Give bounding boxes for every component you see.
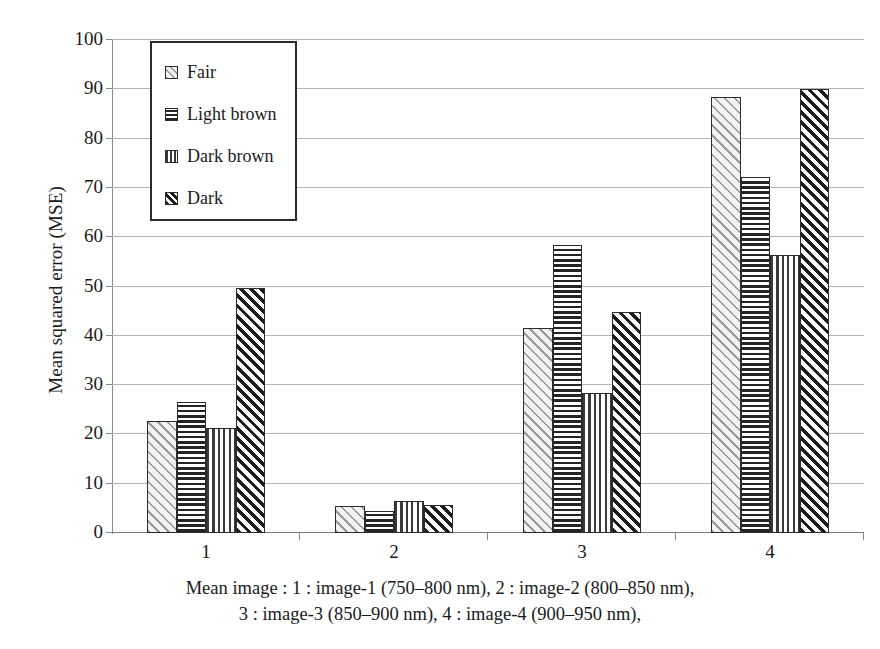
y-tick-label-60: 60 <box>84 225 103 247</box>
y-tick-label-80: 80 <box>84 127 103 149</box>
x-axis-tick-labels: 1234 <box>112 541 864 571</box>
x-category-separator-1 <box>299 533 300 540</box>
bar-group-4 <box>676 40 864 533</box>
bar-dark-brown-1 <box>206 428 236 533</box>
y-tick-label-40: 40 <box>84 324 103 346</box>
x-category-separator-2 <box>487 533 488 540</box>
bars-2 <box>335 40 453 533</box>
bar-dark-brown-3 <box>582 393 612 533</box>
bar-dark-1 <box>236 288 266 533</box>
x-tick-label-4: 4 <box>676 541 864 571</box>
y-tick-label-100: 100 <box>75 28 104 50</box>
bar-dark-brown-2 <box>394 501 424 533</box>
x-tick-label-2: 2 <box>300 541 488 571</box>
bar-light-brown-2 <box>365 511 395 533</box>
x-tick-label-1: 1 <box>112 541 300 571</box>
legend: FairLight brownDark brownDark <box>150 41 297 221</box>
legend-swatch-icon-fair <box>165 66 178 79</box>
legend-swatch-icon-light-brown <box>165 108 178 121</box>
x-category-separator-3 <box>675 533 676 540</box>
y-tick-label-70: 70 <box>84 176 103 198</box>
x-tick-label-3: 3 <box>488 541 676 571</box>
bars-4 <box>711 40 829 533</box>
figure-caption: Mean image : 1 : image-1 (750–800 nm), 2… <box>0 575 880 627</box>
bar-light-brown-4 <box>741 177 771 533</box>
legend-label: Dark <box>187 188 223 209</box>
legend-label: Dark brown <box>187 146 273 167</box>
legend-label: Fair <box>187 62 216 83</box>
caption-line-1: Mean image : 1 : image-1 (750–800 nm), 2… <box>0 575 880 601</box>
legend-item-fair: Fair <box>152 53 295 93</box>
bar-fair-4 <box>711 97 741 533</box>
caption-line-2: 3 : image-3 (850–900 nm), 4 : image-4 (9… <box>0 601 880 627</box>
bar-chart-figure: Mean squared error (MSE) 010203040506070… <box>0 0 880 649</box>
bar-group-3 <box>488 40 676 533</box>
y-tick-label-0: 0 <box>94 521 104 543</box>
bar-dark-4 <box>800 89 830 533</box>
x-category-separator-4 <box>863 533 864 540</box>
bar-group-2 <box>300 40 488 533</box>
bar-fair-2 <box>335 506 365 533</box>
bar-light-brown-1 <box>177 402 207 533</box>
y-tick-label-90: 90 <box>84 77 103 99</box>
y-tick-label-20: 20 <box>84 422 103 444</box>
bar-fair-3 <box>523 328 553 533</box>
y-tick-label-10: 10 <box>84 472 103 494</box>
bar-fair-1 <box>147 421 177 533</box>
bar-dark-2 <box>424 505 454 533</box>
bar-dark-3 <box>612 312 642 533</box>
y-tick-label-50: 50 <box>84 275 103 297</box>
bar-dark-brown-4 <box>770 255 800 533</box>
y-axis-title: Mean squared error (MSE) <box>38 40 74 540</box>
y-tick-label-30: 30 <box>84 373 103 395</box>
legend-label: Light brown <box>187 104 277 125</box>
bars-3 <box>523 40 641 533</box>
legend-item-dark: Dark <box>152 178 295 218</box>
legend-swatch-icon-dark <box>165 192 178 205</box>
legend-item-dark-brown: Dark brown <box>152 136 295 176</box>
bar-light-brown-3 <box>553 245 583 533</box>
legend-item-light-brown: Light brown <box>152 95 295 135</box>
legend-swatch-icon-dark-brown <box>165 150 178 163</box>
